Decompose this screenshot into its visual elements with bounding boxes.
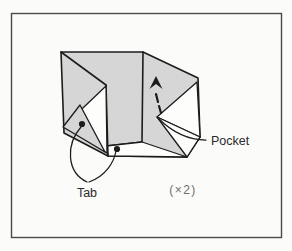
- pocket-label: Pocket: [211, 134, 250, 148]
- tab-marker-dot-left: [79, 121, 85, 127]
- tab-marker-dot-right: [114, 146, 120, 152]
- origami-unit-drawing: [61, 52, 206, 182]
- page-background: Pocket Tab (×2): [0, 0, 292, 251]
- multiplier-label: (×2): [169, 183, 197, 197]
- origami-diagram: Pocket Tab (×2): [0, 0, 292, 251]
- back-wall-fold-edge: [142, 52, 143, 142]
- tab-label: Tab: [77, 186, 97, 200]
